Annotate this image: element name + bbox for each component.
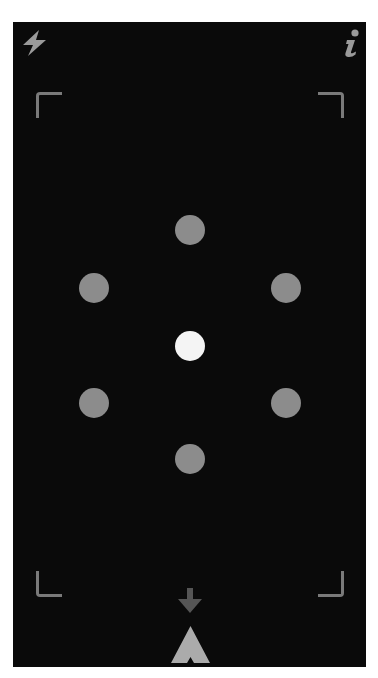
flash-button[interactable] (20, 28, 50, 58)
dot-center-active[interactable] (175, 331, 205, 361)
dot-top[interactable] (175, 215, 205, 245)
dot-lower-left[interactable] (79, 388, 109, 418)
dot-upper-left[interactable] (79, 273, 109, 303)
lightning-bolt-icon (20, 28, 50, 58)
dot-lower-right[interactable] (271, 388, 301, 418)
arrowhead-up-icon (170, 625, 211, 665)
down-arrow-button[interactable] (177, 587, 203, 615)
viewfinder-corner-bottom-right (318, 571, 344, 597)
shutter-button[interactable] (170, 625, 211, 665)
dot-upper-right[interactable] (271, 273, 301, 303)
viewfinder-corner-top-left (36, 92, 62, 118)
info-icon (340, 28, 364, 60)
info-button[interactable] (340, 28, 364, 60)
arrow-down-icon (177, 587, 203, 615)
dot-bottom[interactable] (175, 444, 205, 474)
viewfinder-corner-top-right (318, 92, 344, 118)
viewfinder-corner-bottom-left (36, 571, 62, 597)
